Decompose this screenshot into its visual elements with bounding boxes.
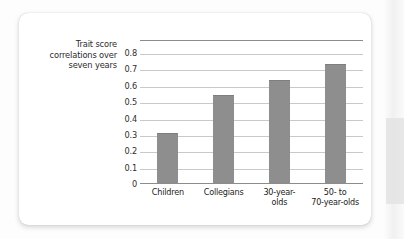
bar-slot	[307, 41, 363, 183]
x-tick-label-line: 30-year-	[252, 187, 308, 197]
y-tick-label: 0.3	[115, 130, 137, 140]
x-tick-label-line: 50- to	[307, 187, 363, 197]
bar	[157, 133, 178, 183]
page-edge-artifact	[384, 0, 404, 239]
figure-card: Trait score correlations over seven year…	[19, 13, 371, 225]
y-tick-label: 0.5	[115, 97, 137, 107]
bar-slot	[252, 41, 308, 183]
bar-chart: Trait score correlations over seven year…	[19, 13, 371, 225]
x-axis-category-labels: ChildrenCollegians30-year-olds50- to70-y…	[140, 187, 363, 207]
y-tick-label: 0.6	[115, 81, 137, 91]
x-tick-label: 30-year-olds	[252, 187, 308, 207]
screenshot-root: Trait score correlations over seven year…	[0, 0, 404, 239]
x-tick-label-line: 70-year-olds	[307, 197, 363, 207]
y-axis-tick-labels: 0.80.70.60.50.40.30.20.10	[115, 13, 137, 225]
y-tick-label: 0.2	[115, 146, 137, 156]
bar	[269, 80, 290, 183]
x-tick-label: Collegians	[196, 187, 252, 207]
x-tick-label-line: Children	[140, 187, 196, 197]
x-tick-label-line: Collegians	[196, 187, 252, 197]
bar-slot	[196, 41, 252, 183]
y-tick-label: 0.1	[115, 163, 137, 173]
y-axis-title-line-1: Trait score	[25, 39, 117, 50]
bar	[213, 95, 234, 183]
y-tick-label: 0.7	[115, 64, 137, 74]
y-tick-label: 0.4	[115, 114, 137, 124]
x-tick-label: 50- to70-year-olds	[307, 187, 363, 207]
y-tick-label: 0	[115, 179, 137, 189]
y-tick-label: 0.8	[115, 48, 137, 58]
bar-series	[140, 41, 363, 183]
x-tick-label-line: olds	[252, 197, 308, 207]
bar	[325, 64, 346, 183]
plot-area	[140, 40, 363, 184]
y-axis-title-line-3: seven years	[25, 60, 117, 71]
page-edge-shadow-block	[386, 118, 404, 204]
bar-slot	[140, 41, 196, 183]
y-axis-title: Trait score correlations over seven year…	[25, 39, 117, 71]
y-axis-title-line-2: correlations over	[25, 50, 117, 61]
x-tick-label: Children	[140, 187, 196, 207]
